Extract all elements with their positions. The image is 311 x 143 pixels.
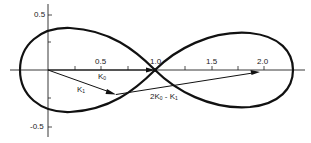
x-tick-label-1.5: 1.5 bbox=[206, 58, 217, 66]
figure-eight-diagram bbox=[0, 0, 311, 143]
x-tick-label-1.0: 1.0 bbox=[150, 58, 161, 66]
y-tick-label-0.5: 0.5 bbox=[34, 11, 45, 19]
y-tick-label-neg0.5: -0.5 bbox=[30, 123, 44, 131]
label-k1: K1 bbox=[77, 86, 85, 94]
label-k0: K0 bbox=[98, 73, 106, 81]
x-tick-label-2.0: 2.0 bbox=[257, 58, 268, 66]
label-2k0-k1: 2K0 - K1 bbox=[150, 93, 178, 101]
x-tick-label-0.5: 0.5 bbox=[95, 58, 106, 66]
